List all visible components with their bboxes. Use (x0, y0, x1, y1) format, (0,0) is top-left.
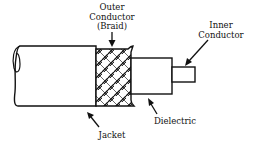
label-inner-conductor: Inner Conductor (196, 21, 246, 40)
label-jacket-text: Jacket (95, 131, 129, 141)
label-outer-conductor: Outer Conductor (Braid) (88, 3, 136, 32)
coax-cable-diagram: Outer Conductor (Braid) Inner Conductor … (0, 0, 265, 148)
label-inner-conductor-line2: Conductor (196, 31, 246, 41)
label-dielectric-text: Dielectric (152, 117, 198, 127)
label-outer-conductor-line3: (Braid) (88, 22, 136, 32)
arrow-inner-conductor (185, 40, 208, 66)
dielectric-shape (131, 58, 172, 94)
arrow-dielectric (148, 98, 157, 114)
label-jacket: Jacket (95, 131, 129, 141)
inner-conductor-shape (172, 67, 195, 82)
arrow-jacket (87, 112, 99, 127)
jacket-shape (13, 46, 96, 106)
braid-shape (96, 46, 134, 106)
arrow-outer-conductor (109, 32, 116, 47)
label-dielectric: Dielectric (152, 117, 198, 127)
